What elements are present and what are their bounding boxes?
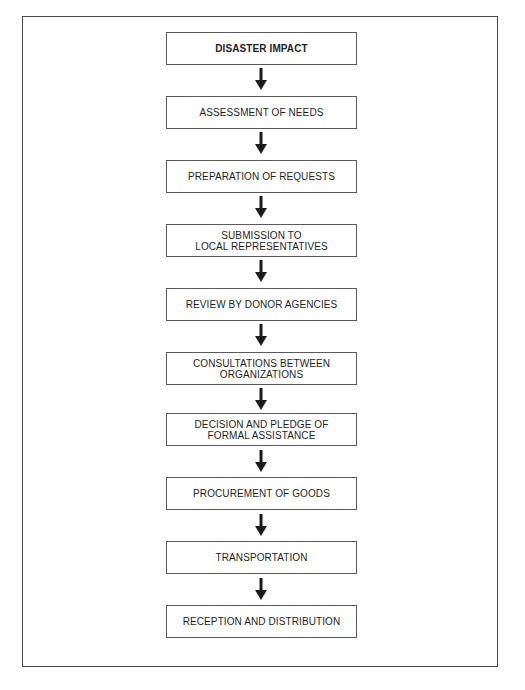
arrow-down-icon bbox=[255, 514, 267, 536]
step-label: DISASTER IMPACT bbox=[215, 43, 307, 54]
arrow-down-icon bbox=[255, 260, 267, 282]
step-review-by-donor-agencies: REVIEW BY DONOR AGENCIES bbox=[166, 288, 357, 321]
step-consultations-between-organizations: CONSULTATIONS BETWEEN ORGANIZATIONS bbox=[166, 352, 357, 385]
step-label: ASSESSMENT OF NEEDS bbox=[200, 107, 324, 118]
arrow-down-icon bbox=[255, 68, 267, 90]
step-label: RECEPTION AND DISTRIBUTION bbox=[183, 616, 341, 627]
arrow-down-icon bbox=[255, 450, 267, 472]
arrow-down-icon bbox=[255, 324, 267, 346]
step-preparation-of-requests: PREPARATION OF REQUESTS bbox=[166, 160, 357, 193]
arrow-down-icon bbox=[255, 132, 267, 154]
arrow-down-icon bbox=[255, 578, 267, 600]
step-transportation: TRANSPORTATION bbox=[166, 541, 357, 574]
step-reception-and-distribution: RECEPTION AND DISTRIBUTION bbox=[166, 605, 357, 638]
step-label: SUBMISSION TO LOCAL REPRESENTATIVES bbox=[195, 230, 328, 252]
step-label: PREPARATION OF REQUESTS bbox=[188, 171, 335, 182]
step-label: REVIEW BY DONOR AGENCIES bbox=[186, 299, 338, 310]
arrow-down-icon bbox=[255, 196, 267, 218]
arrow-down-icon bbox=[255, 388, 267, 410]
step-assessment-of-needs: ASSESSMENT OF NEEDS bbox=[166, 96, 357, 129]
step-disaster-impact: DISASTER IMPACT bbox=[166, 32, 357, 65]
step-label: PROCUREMENT OF GOODS bbox=[193, 488, 330, 499]
step-decision-and-pledge: DECISION AND PLEDGE OF FORMAL ASSISTANCE bbox=[166, 413, 357, 446]
step-label: DECISION AND PLEDGE OF FORMAL ASSISTANCE bbox=[195, 419, 329, 441]
step-label: CONSULTATIONS BETWEEN ORGANIZATIONS bbox=[193, 358, 330, 380]
step-label: TRANSPORTATION bbox=[216, 552, 308, 563]
step-submission-to-local-representatives: SUBMISSION TO LOCAL REPRESENTATIVES bbox=[166, 224, 357, 257]
step-procurement-of-goods: PROCUREMENT OF GOODS bbox=[166, 477, 357, 510]
